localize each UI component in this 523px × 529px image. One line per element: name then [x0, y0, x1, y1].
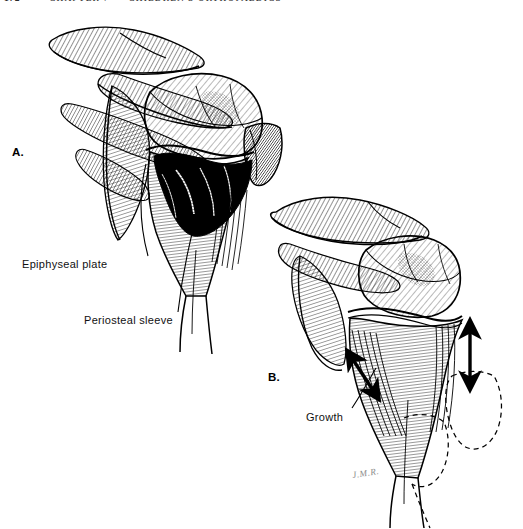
- panel-label-a: A.: [12, 146, 24, 158]
- panel-label-b: B.: [268, 371, 280, 383]
- panel-a-drawing: [49, 27, 282, 354]
- label-growth: Growth: [306, 411, 343, 423]
- label-periosteal-sleeve: Periosteal sleeve: [84, 314, 173, 326]
- textbook-page: 172 CHAPTER 7 CHILDREN'S ORTHOPAEDICS: [0, 0, 523, 529]
- panel-b-humeral-head: [359, 236, 461, 317]
- panel-b-humeral-shaft: [350, 318, 463, 528]
- panel-b-drawing: [271, 197, 502, 528]
- label-epiphyseal-plate: Epiphyseal plate: [22, 258, 108, 270]
- panel-a-displaced-fragment: [244, 124, 282, 186]
